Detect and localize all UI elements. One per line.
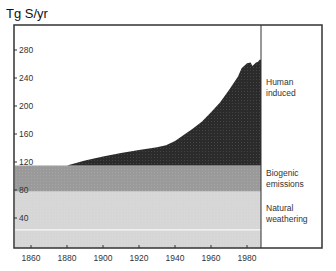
- legend-natural-line1: Natural: [266, 203, 308, 214]
- x-tick-label: 1940: [166, 253, 185, 263]
- x-tick-label: 1960: [202, 253, 221, 263]
- x-tick-label: 1900: [94, 253, 113, 263]
- y-tick-label: 80: [19, 185, 29, 195]
- legend-human-line2: induced: [266, 88, 296, 99]
- texture-overlay: [15, 25, 261, 248]
- x-tick-label: 1920: [130, 253, 149, 263]
- x-tick-label: 1980: [238, 253, 257, 263]
- y-tick-label: 200: [19, 101, 33, 111]
- x-tick-label: 1860: [22, 253, 41, 263]
- y-tick-label: 240: [19, 73, 33, 83]
- y-tick-label: 160: [19, 129, 33, 139]
- legend-biogenic-line2: emissions: [266, 179, 304, 190]
- legend-biogenic-emissions: Biogenic emissions: [266, 168, 304, 189]
- legend-biogenic-line1: Biogenic: [266, 168, 304, 179]
- legend-natural-line2: weathering: [266, 214, 308, 225]
- y-tick-label: 40: [19, 213, 29, 223]
- legend-human-induced: Human induced: [266, 77, 296, 98]
- x-tick-label: 1880: [58, 253, 77, 263]
- area-chart: 4080120160200240280186018801900192019401…: [0, 0, 336, 271]
- y-tick-label: 120: [19, 157, 33, 167]
- y-tick-label: 280: [19, 45, 33, 55]
- legend-human-line1: Human: [266, 77, 296, 88]
- legend-natural-weathering: Natural weathering: [266, 203, 308, 224]
